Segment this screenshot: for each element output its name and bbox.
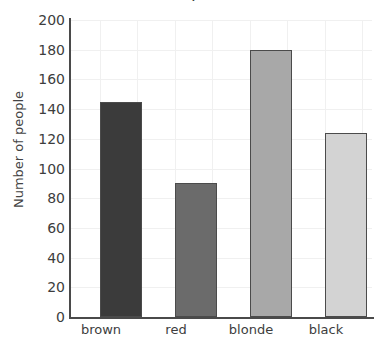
y-tick-label-200: 200 [5, 13, 65, 27]
x-axis-line [69, 317, 374, 319]
bar-brown[interactable] [100, 102, 142, 317]
y-tick-label-40: 40 [5, 251, 65, 265]
gridline-horizontal [70, 50, 372, 51]
bar-red[interactable] [175, 183, 217, 317]
x-tick-label-blonde: blonde [220, 322, 282, 337]
x-tick-label-black: black [295, 322, 357, 337]
y-tick-label-180: 180 [5, 43, 65, 57]
bar-chart: . Number of people 200 180 160 140 120 1 [0, 0, 387, 345]
y-axis-title: Number of people [11, 70, 26, 230]
y-tick-label-100: 100 [5, 162, 65, 176]
y-tick-label-160: 160 [5, 72, 65, 86]
plot-area [70, 20, 372, 317]
y-tick-label-20: 20 [5, 280, 65, 294]
y-axis-line [69, 18, 71, 318]
bar-black[interactable] [325, 133, 367, 317]
chart-title: . [0, 0, 387, 1]
gridline-horizontal [70, 20, 372, 21]
y-tick-label-120: 120 [5, 132, 65, 146]
bar-blonde[interactable] [250, 50, 292, 317]
y-tick-label-140: 140 [5, 102, 65, 116]
y-tick-label-60: 60 [5, 221, 65, 235]
x-tick-label-red: red [145, 322, 207, 337]
y-tick-label-0: 0 [5, 310, 65, 324]
x-tick-label-brown: brown [70, 322, 132, 337]
y-tick-label-80: 80 [5, 191, 65, 205]
gridline-horizontal [70, 79, 372, 80]
